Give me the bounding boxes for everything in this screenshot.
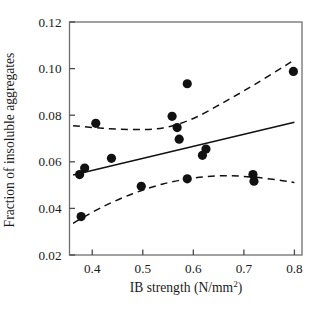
- data-point: [175, 135, 184, 144]
- data-point: [168, 112, 177, 121]
- y-tick-label: 0.10: [38, 61, 61, 76]
- x-tick-label: 0.6: [185, 261, 202, 276]
- chart-figure: 0.40.50.60.70.8 0.020.040.060.080.100.12…: [0, 0, 317, 310]
- y-tick-label: 0.12: [38, 15, 61, 30]
- data-point: [201, 144, 210, 153]
- data-point: [107, 154, 116, 163]
- x-tick-label: 0.5: [135, 261, 152, 276]
- data-point: [80, 163, 89, 172]
- y-tick-label: 0.02: [38, 248, 61, 263]
- data-point: [249, 177, 258, 186]
- data-point: [183, 174, 192, 183]
- x-axis-title: IB strength (N/mm2): [130, 279, 243, 296]
- data-point: [77, 212, 86, 221]
- y-axis-title: Fraction of insoluble aggregates: [2, 53, 17, 228]
- x-tick-label: 0.8: [286, 261, 303, 276]
- data-point: [289, 67, 298, 76]
- y-tick-label: 0.08: [38, 108, 61, 123]
- scatter-plot: 0.40.50.60.70.8 0.020.040.060.080.100.12…: [0, 0, 317, 310]
- data-point: [91, 119, 100, 128]
- data-point: [183, 79, 192, 88]
- data-point: [173, 123, 182, 132]
- data-point: [137, 182, 146, 191]
- x-tick-label: 0.7: [236, 261, 253, 276]
- x-tick-label: 0.4: [84, 261, 101, 276]
- y-tick-label: 0.06: [38, 154, 61, 169]
- y-tick-label: 0.04: [38, 201, 61, 216]
